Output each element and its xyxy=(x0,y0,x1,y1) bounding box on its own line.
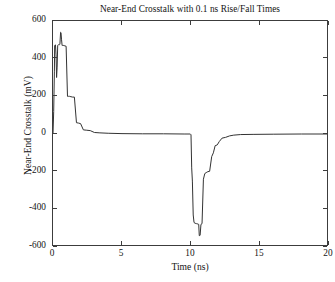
y-axis-title: Near-End Crosstalk (mV) xyxy=(22,36,33,216)
plot-area xyxy=(52,20,328,246)
x-tick-bottom-4 xyxy=(328,241,329,245)
y-tick-right-4 xyxy=(323,170,327,171)
x-tick-label-1: 5 xyxy=(101,248,141,259)
x-tick-bottom-3 xyxy=(259,241,260,245)
x-tick-top-2 xyxy=(190,21,191,25)
y-tick-left-4 xyxy=(53,170,57,171)
y-tick-left-3 xyxy=(53,133,57,134)
x-axis-title: Time (ns) xyxy=(52,261,328,272)
x-tick-bottom-2 xyxy=(190,241,191,245)
chart-figure: Near-End Crosstalk with 0.1 ns Rise/Fall… xyxy=(0,0,335,282)
x-tick-label-3: 15 xyxy=(239,248,279,259)
y-tick-right-2 xyxy=(323,95,327,96)
crosstalk-trace xyxy=(53,21,328,246)
trace-polyline xyxy=(53,32,328,235)
x-tick-top-1 xyxy=(121,21,122,25)
x-tick-top-0 xyxy=(52,21,53,25)
y-tick-right-5 xyxy=(323,208,327,209)
x-tick-top-4 xyxy=(328,21,329,25)
x-tick-label-2: 10 xyxy=(170,248,210,259)
x-tick-top-3 xyxy=(259,21,260,25)
y-tick-left-2 xyxy=(53,95,57,96)
y-tick-left-1 xyxy=(53,57,57,58)
y-tick-right-0 xyxy=(323,20,327,21)
chart-title: Near-End Crosstalk with 0.1 ns Rise/Fall… xyxy=(52,3,328,15)
y-tick-right-1 xyxy=(323,57,327,58)
x-tick-bottom-1 xyxy=(121,241,122,245)
x-tick-bottom-0 xyxy=(52,241,53,245)
y-tick-label-6: -600 xyxy=(2,240,46,251)
x-tick-label-4: 20 xyxy=(308,248,335,259)
y-tick-label-0: 600 xyxy=(2,14,46,25)
y-tick-right-6 xyxy=(323,246,327,247)
y-tick-left-5 xyxy=(53,208,57,209)
y-tick-left-0 xyxy=(53,20,57,21)
y-tick-left-6 xyxy=(53,246,57,247)
y-tick-right-3 xyxy=(323,133,327,134)
